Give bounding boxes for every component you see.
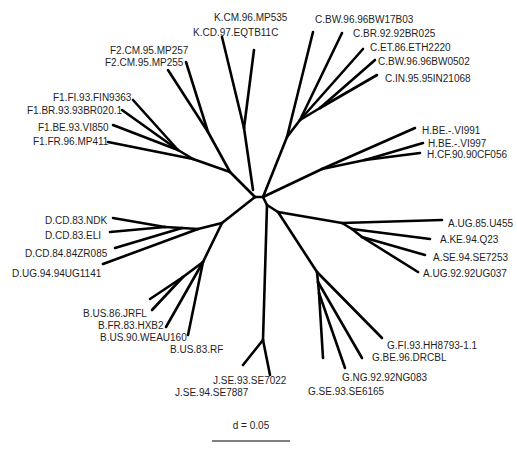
phylogenetic-tree: K.CM.96.MP535 K.CD.97.EQTB11C C.BW.96.96… [0,0,517,451]
tree-branch [322,160,365,169]
leaf-label-f2-cm-mp257: F2.CM.95.MP257 [110,45,189,56]
tree-branch [165,227,182,228]
tree-branch [203,223,222,262]
leaf-label-c-br-92br025: C.BR.92.92BR025 [353,28,436,39]
tree-branch [362,237,425,255]
tree-branch [300,49,363,120]
leaf-label-f1-be-vi850: F1.BE.93.VI850 [38,122,109,133]
tree-branch [244,128,253,190]
tree-branch [243,340,263,365]
leaf-label-b-fr-hxb2: B.FR.83.HXB2 [98,320,164,331]
tree-branch [317,272,318,282]
tree-branch [318,282,362,358]
leaf-label-a-se-se7253: A.SE.94.SE7253 [433,252,508,263]
leaf-label-f1-fr-mp411: F1.FR.96.MP411 [33,136,109,147]
leaf-label-h-cf-90cf056: H.CF.90.90CF056 [427,149,507,160]
leaf-label-d-cd-ndk: D.CD.83.NDK [45,215,108,226]
tree-branch [362,237,418,272]
tree-branch [110,227,165,232]
tree-branch [267,205,278,212]
tree-branch [317,272,382,338]
leaf-label-f1-fi-fin9363: F1.FI.93.FIN9363 [53,92,132,103]
tree-branch [222,197,255,223]
leaf-label-h-be-vi991: H.BE.-.VI991 [422,125,481,136]
leaf-label-g-fi-hh8793: G.FI.93.HH8793-1.1 [387,340,477,351]
leaf-label-d-cd-eli: D.CD.83.ELI [45,230,101,241]
tree-branch [168,70,208,132]
tree-branch [263,340,270,375]
leaf-label-d-cd-84zr085: D.CD.84.84ZR085 [25,248,108,259]
leaf-label-a-ke-q23: A.KE.94.Q23 [440,234,499,245]
leaf-label-g-be-drcbl: G.BE.96.DRCBL [372,352,447,363]
scale-bar-label: d = 0.05 [233,420,270,431]
tree-branch [182,228,198,229]
tree-branch [222,37,244,128]
tree-branch [113,218,165,227]
leaf-label-b-us-rf: B.US.83.RF [170,344,223,355]
leaf-label-d-ug-94ug1141: D.UG.94.94UG1141 [12,268,102,279]
tree-branch [244,50,254,128]
leaf-label-c-in-95in21068: C.IN.95.95IN21068 [385,73,471,84]
tree-branch [342,220,442,223]
tree-branch [186,62,208,132]
tree-branch [278,212,342,223]
leaf-label-c-bw-96bw0502: C.BW.96.96BW0502 [378,56,470,67]
leaf-label-a-ug-u455: A.UG.85.U455 [448,218,513,229]
leaf-label-k-cm-mp535: K.CM.96.MP535 [214,12,288,23]
leaf-label-g-ng-92ng083: G.NG.92.92NG083 [342,372,427,383]
leaf-label-b-us-weau160: B.US.90.WEAU160 [100,332,187,343]
leaf-label-c-et-eth2220: C.ET.86.ETH2220 [370,42,451,53]
tree-branch [263,197,267,205]
leaf-label-f1-br-93br020: F1.BR.93.93BR020.1 [27,105,122,116]
leaf-label-h-be-vi997: H.BE.-.VI997 [428,138,487,149]
leaf-label-a-ug-92ug037: A.UG.92.92UG037 [423,268,507,279]
scale-bar-group: d = 0.05 [212,420,290,441]
tree-branch [318,282,319,293]
tree-branch [263,205,267,340]
tree-branch [122,110,178,150]
tree-branch [278,212,317,272]
leaf-label-g-se-se6165: G.SE.93.SE6165 [308,386,385,397]
tree-branch [320,75,377,108]
leaf-label-b-us-jrfl: B.US.86.JRFL [83,308,147,319]
leaf-label-c-bw-96bw17b03: C.BW.96.96BW17B03 [315,14,414,25]
leaf-label-j-se-se7022: J.SE.93.SE7022 [213,375,287,386]
leaf-label-f2-cm-mp255: F2.CM.95.MP255 [105,57,184,68]
leaf-label-j-se-se7887: J.SE.94.SE7887 [175,387,249,398]
leaf-label-k-cd-eqtb11c: K.CD.97.EQTB11C [193,27,278,38]
